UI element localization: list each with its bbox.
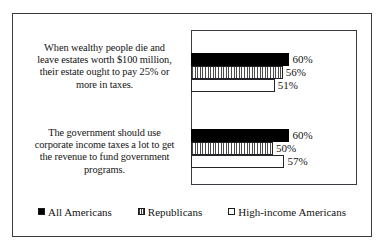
bar-value-label: 51% xyxy=(278,79,298,92)
bar-value-label: 56% xyxy=(286,66,306,79)
category-label-estate-tax: When wealthy people die and leave estate… xyxy=(17,42,192,91)
bar-group-corporate-tax: 60% 50% 57% xyxy=(192,129,356,168)
bar-value-label: 60% xyxy=(292,129,312,142)
legend-swatch-icon xyxy=(138,208,145,215)
chart-body: When wealthy people die and leave estate… xyxy=(13,14,371,191)
legend-item-all-americans[interactable]: All Americans xyxy=(38,206,112,218)
bar-group-estate-tax: 60% 56% 51% xyxy=(192,53,356,92)
legend-swatch-icon xyxy=(38,208,45,215)
legend-label: High-income Americans xyxy=(238,206,346,218)
legend-item-high-income-americans[interactable]: High-income Americans xyxy=(228,206,346,218)
bar-value-label: 50% xyxy=(276,142,296,155)
legend-swatch-icon xyxy=(228,208,235,215)
bar-value-label: 60% xyxy=(292,53,312,66)
plot-area: 60% 56% 51% 60% 50% xyxy=(191,30,357,185)
category-label-line: programs. xyxy=(17,164,192,176)
bar-high-income-americans xyxy=(191,79,275,92)
category-label-line: The government should use xyxy=(17,127,192,139)
bar-all-americans xyxy=(191,129,289,142)
bar-republicans xyxy=(191,66,283,79)
category-label-line: more in taxes. xyxy=(17,79,192,91)
bar-row: 60% xyxy=(192,53,356,66)
category-label-corporate-tax: The government should use corporate inco… xyxy=(17,127,192,176)
category-label-line: When wealthy people die and xyxy=(17,42,192,54)
legend-item-republicans[interactable]: Republicans xyxy=(138,206,202,218)
chart-legend: All Americans Republicans High-income Am… xyxy=(13,191,371,236)
bar-row: 57% xyxy=(192,155,356,168)
bar-all-americans xyxy=(191,53,289,66)
legend-label: All Americans xyxy=(48,206,112,218)
bar-high-income-americans xyxy=(191,155,284,168)
category-label-line: the revenue to fund government xyxy=(17,151,192,163)
bar-row: 56% xyxy=(192,66,356,79)
legend-label: Republicans xyxy=(148,206,202,218)
category-axis-labels: When wealthy people die and leave estate… xyxy=(17,14,192,191)
category-label-line: leave estates worth $100 million, xyxy=(17,54,192,66)
bar-row: 50% xyxy=(192,142,356,155)
category-label-line: their estate ought to pay 25% or xyxy=(17,66,192,78)
bar-value-label: 57% xyxy=(287,155,307,168)
category-label-line: corporate income taxes a lot to get xyxy=(17,139,192,151)
bar-row: 60% xyxy=(192,129,356,142)
bar-republicans xyxy=(191,142,273,155)
chart-frame: When wealthy people die and leave estate… xyxy=(12,13,372,237)
bar-row: 51% xyxy=(192,79,356,92)
